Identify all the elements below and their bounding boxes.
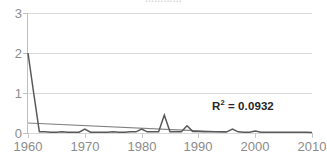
data-series-path — [28, 53, 312, 133]
r-squared-annotation: R2 = 0.0932 — [212, 100, 274, 112]
r-squared-value: = 0.0932 — [225, 100, 274, 112]
chart-container: ………… 0123 196019701980199020002010 R2 = … — [0, 0, 327, 165]
series-layer — [0, 0, 327, 165]
